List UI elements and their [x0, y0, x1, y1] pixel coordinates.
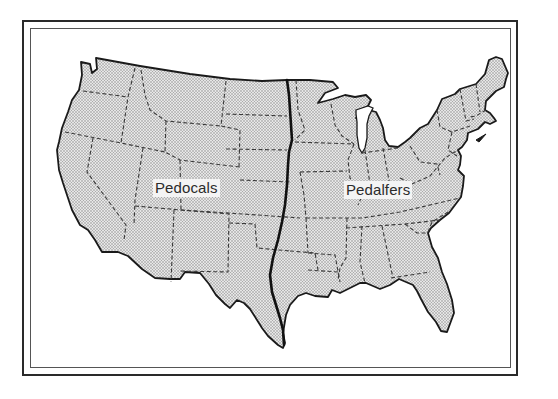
soil-map-figure: Pedocals Pedalfers — [0, 0, 558, 399]
long-island — [476, 134, 486, 142]
label-pedocals: Pedocals — [153, 179, 220, 197]
us-landmass — [57, 57, 508, 348]
label-pedalfers: Pedalfers — [344, 181, 412, 199]
us-map — [0, 0, 558, 399]
